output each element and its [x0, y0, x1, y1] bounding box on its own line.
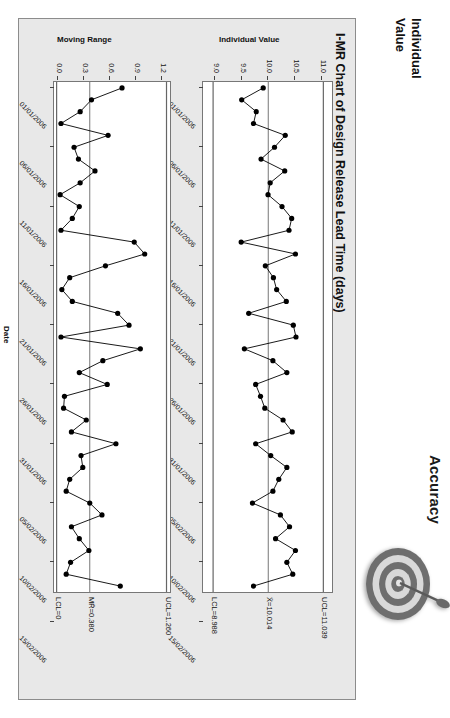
limit-label-ucl: UCL=11.039	[320, 597, 329, 639]
x-tick	[199, 502, 203, 503]
y-tick-label: 0.3	[82, 45, 89, 73]
limit-label-lcl: LCL=0	[54, 597, 63, 619]
y-tick	[83, 76, 84, 80]
chart-panel: I-MR Chart of Design Release Lead Time (…	[18, 18, 356, 700]
moving-range-chart: Moving Range 1.20.90.60.30.0UCL=1.260MR̄…	[13, 19, 173, 701]
y-tick	[268, 76, 269, 80]
y-tick-label: 11.0	[320, 45, 327, 73]
x-tick-label: 31/01/2006	[18, 456, 48, 486]
limit-label-center: MR̄=0.380	[87, 597, 96, 632]
x-tick	[199, 621, 203, 622]
y-tick-label: 10.0	[267, 45, 274, 73]
x-tick	[199, 443, 203, 444]
individuals-plot-area	[202, 81, 333, 593]
x-tick	[199, 383, 203, 384]
x-tick	[50, 621, 54, 622]
x-tick	[199, 146, 203, 147]
x-tick-label: 06/01/2006	[18, 159, 48, 189]
x-tick-label: 10/02/2006	[18, 575, 48, 605]
x-tick	[50, 87, 54, 88]
x-tick	[199, 206, 203, 207]
x-tick	[50, 383, 54, 384]
moving-range-y-axis-label: Moving Range	[57, 35, 112, 44]
x-tick-label: 01/01/2006	[18, 100, 48, 130]
y-tick-label: 10.5	[293, 45, 300, 73]
y-tick	[241, 76, 242, 80]
y-tick-label: 0.6	[108, 45, 115, 73]
y-tick-label: 9.0	[213, 45, 220, 73]
x-tick	[199, 324, 203, 325]
limit-label-ucl: UCL=1.260	[164, 597, 173, 635]
limit-label-lcl: LCL=8.988	[210, 597, 219, 634]
y-tick	[214, 76, 215, 80]
y-tick	[294, 76, 295, 80]
accuracy-target-icon-block: Accuracy	[426, 455, 444, 524]
moving-range-plot-area	[53, 81, 171, 593]
y-tick	[135, 76, 136, 80]
individual-value-caption: Individual Value	[392, 18, 425, 128]
series-canvas	[54, 82, 170, 592]
x-tick-label: 26/01/2006	[18, 397, 48, 427]
x-tick	[50, 443, 54, 444]
x-tick	[199, 87, 203, 88]
x-tick-label: 21/01/2006	[18, 337, 48, 367]
y-tick-label: 1.2	[160, 45, 167, 73]
x-tick-label: 05/02/2006	[18, 515, 48, 545]
individuals-y-axis-label: Individual Value	[219, 35, 279, 44]
x-tick-label: 15/02/2006	[18, 634, 48, 664]
x-tick	[50, 502, 54, 503]
x-tick	[50, 561, 54, 562]
x-tick	[199, 561, 203, 562]
y-tick-label: 9.5	[240, 45, 247, 73]
accuracy-target-icon	[358, 540, 450, 632]
x-axis-label: Date	[2, 326, 11, 343]
y-tick	[57, 76, 58, 80]
limit-label-center: X̄=10.014	[265, 597, 274, 629]
x-tick	[50, 265, 54, 266]
series-canvas	[203, 82, 332, 592]
y-tick	[321, 76, 322, 80]
x-tick-label: 16/01/2006	[18, 278, 48, 308]
y-tick-label: 0.0	[56, 45, 63, 73]
y-tick	[161, 76, 162, 80]
x-tick-label: 11/01/2006	[19, 219, 48, 248]
y-tick	[109, 76, 110, 80]
x-tick	[50, 206, 54, 207]
x-tick	[199, 265, 203, 266]
x-tick	[50, 324, 54, 325]
accuracy-label: Accuracy	[427, 455, 444, 524]
x-tick	[50, 146, 54, 147]
y-tick-label: 0.9	[134, 45, 141, 73]
individuals-chart: Individual Value 11.010.510.09.59.0UCL=1…	[177, 19, 337, 701]
